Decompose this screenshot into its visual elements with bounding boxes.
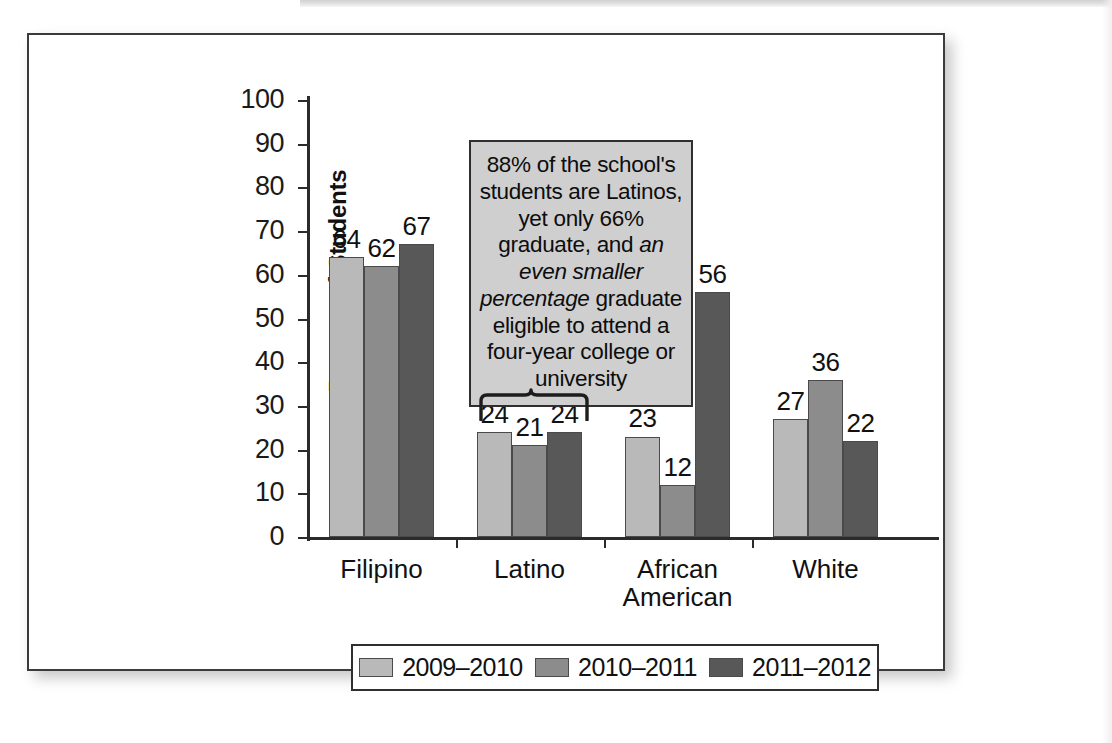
y-tick: 90: [298, 144, 307, 146]
y-tick: 70: [298, 231, 307, 233]
latino-callout: 88% of the school's students are Latinos…: [469, 140, 693, 407]
y-tick: 10: [298, 493, 307, 495]
bar: [512, 445, 547, 537]
legend-item[interactable]: 2010–2011: [535, 653, 697, 682]
y-tick-label: 70: [255, 215, 284, 246]
bar-value-label: 12: [664, 452, 692, 483]
x-tick: [604, 537, 606, 548]
y-tick-label: 0: [269, 521, 284, 552]
legend-label-2010-2011: 2010–2011: [578, 653, 697, 682]
bar: [625, 437, 660, 538]
x-axis-line: [307, 537, 939, 540]
bar: [773, 419, 808, 537]
latino-group-brace-icon: [478, 387, 590, 421]
x-tick: [752, 537, 754, 548]
y-tick-label: 100: [240, 84, 284, 115]
y-tick-label: 80: [255, 171, 284, 202]
legend-item[interactable]: 2009–2010: [359, 653, 523, 682]
y-axis-line: [307, 96, 310, 541]
chart-legend: 2009–2010 2010–2011 2011–2012: [351, 644, 879, 691]
legend-label-2011-2012: 2011–2012: [752, 653, 871, 682]
bar-value-label: 36: [812, 347, 840, 378]
scan-artifact-band: [300, 0, 1112, 7]
bar-value-label: 64: [333, 224, 361, 255]
category-label: Filipino: [340, 555, 422, 583]
x-tick: [456, 537, 458, 548]
bar-value-label: 23: [629, 403, 657, 434]
legend-label-2009-2010: 2009–2010: [402, 653, 523, 682]
bar: [399, 244, 434, 537]
category-label: White: [792, 555, 858, 583]
bar: [808, 380, 843, 537]
bar: [477, 432, 512, 537]
bar-value-label: 67: [403, 211, 431, 242]
bar-value-label: 27: [777, 386, 805, 417]
y-tick-label: 40: [255, 346, 284, 377]
y-tick: 80: [298, 187, 307, 189]
legend-item[interactable]: 2011–2012: [709, 653, 871, 682]
legend-swatch-2011-2012: [709, 658, 743, 677]
category-label: Latino: [494, 555, 565, 583]
bar: [547, 432, 582, 537]
scan-artifact-edge: [1102, 0, 1112, 743]
legend-swatch-2010-2011: [535, 658, 569, 677]
y-tick-label: 30: [255, 390, 284, 421]
bar-value-label: 62: [368, 233, 396, 264]
y-tick-label: 10: [255, 477, 284, 508]
y-tick: 50: [298, 319, 307, 321]
y-tick-label: 20: [255, 433, 284, 464]
bar: [660, 485, 695, 537]
bar: [329, 257, 364, 537]
bar: [364, 266, 399, 537]
y-tick: 100: [298, 100, 307, 102]
y-tick: 0: [298, 537, 307, 539]
y-tick: 60: [298, 275, 307, 277]
bar: [843, 441, 878, 537]
bar: [695, 292, 730, 537]
y-tick: 30: [298, 406, 307, 408]
bar-value-label: 22: [847, 408, 875, 439]
figure-frame: Percent of Students 10090807060504030201…: [27, 33, 945, 671]
y-tick-label: 60: [255, 259, 284, 290]
y-tick: 40: [298, 362, 307, 364]
legend-swatch-2009-2010: [359, 658, 393, 677]
category-label: African American: [623, 555, 733, 611]
bar-value-label: 56: [699, 259, 727, 290]
y-tick-label: 50: [255, 302, 284, 333]
y-tick-label: 90: [255, 128, 284, 159]
y-tick: 20: [298, 450, 307, 452]
